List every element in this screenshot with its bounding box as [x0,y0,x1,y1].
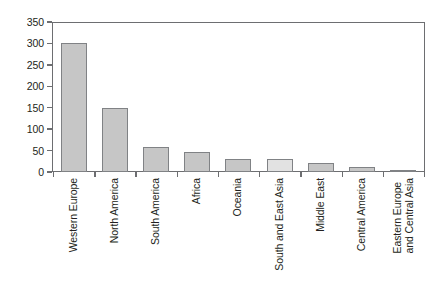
x-axis-tick-mark [135,172,136,177]
y-axis-tick-mark [47,150,52,151]
x-axis-label-line: South and East Asia [273,178,285,271]
bars-layer [53,22,424,172]
x-axis-tick-mark [94,172,95,177]
bar-slot [259,22,300,172]
y-axis-tick-mark [47,43,52,44]
x-axis-label: Africa [192,178,204,204]
y-axis-tick-label: 50 [33,144,44,158]
x-axis-tick-mark [383,172,384,177]
bar-slot [94,22,135,172]
x-axis-label-line: Western Europe [67,178,79,252]
x-axis-tick-mark [424,172,425,177]
y-axis-tick-label: 350 [27,15,44,29]
y-axis-tick-label: 300 [27,36,44,50]
x-axis-label-slot: North America [94,178,135,290]
y-axis-tick-label: 100 [27,122,44,136]
x-axis-label-line: and Central Asia [403,178,415,253]
x-axis-label: Central America [356,178,368,251]
y-axis-tick-mark [47,107,52,108]
x-axis-label-slot: South America [135,178,176,290]
x-axis-label-slot: Africa [177,178,218,290]
x-axis-label-slot: South and East Asia [259,178,300,290]
x-axis-label-slot: Eastern Europeand Central Asia [383,178,424,290]
x-axis-tick-mark [300,172,301,177]
x-axis-tick-mark [259,172,260,177]
bar[interactable] [143,147,169,172]
bar[interactable] [184,152,210,172]
x-axis-label-line: North America [108,178,120,243]
x-axis-label-slot: Middle East [300,178,341,290]
x-axis-tick-mark [53,172,54,177]
x-axis-label-slot: Central America [342,178,383,290]
y-axis-tick-label: 250 [27,58,44,72]
y-axis: 050100150200250300350 [0,22,52,172]
y-axis-tick-mark [47,128,52,129]
x-axis-label-slot: Oceania [218,178,259,290]
y-axis-tick-mark [47,64,52,65]
x-axis-tick-mark [218,172,219,177]
y-axis-tick-label: 150 [27,101,44,115]
x-axis-label: South America [150,178,162,245]
bar-slot [53,22,94,172]
bar-slot [218,22,259,172]
x-axis-label: North America [109,178,121,243]
x-axis-label-line: South America [149,178,161,245]
bar[interactable] [61,43,87,172]
y-axis-tick-label: 200 [27,79,44,93]
x-axis-labels: Western EuropeNorth AmericaSouth America… [53,178,424,290]
bar[interactable] [102,108,128,172]
x-axis-label-line: Oceania [232,178,244,216]
x-axis-label-slot: Western Europe [53,178,94,290]
bar-slot [383,22,424,172]
bar[interactable] [267,159,293,172]
bar-slot [177,22,218,172]
bar-chart-figure: 050100150200250300350 Western EuropeNort… [0,0,444,291]
x-axis-label: Middle East [315,178,327,232]
x-axis-label-line: Central America [355,178,367,251]
x-axis-label: Eastern Europeand Central Asia [392,178,415,253]
x-axis-label: Western Europe [68,178,80,252]
x-axis-label: South and East Asia [274,178,286,271]
x-axis-label: Oceania [233,178,245,216]
bar[interactable] [308,163,334,172]
y-axis-tick-mark [47,21,52,22]
bar-slot [135,22,176,172]
x-axis-tick-mark [342,172,343,177]
x-axis-label-line: Africa [191,178,203,204]
y-axis-tick-label: 0 [38,165,44,179]
x-axis-label-line: Eastern Europe [391,182,403,254]
x-axis-label-line: Middle East [314,178,326,232]
bar-slot [342,22,383,172]
bar[interactable] [225,159,251,172]
bar-slot [300,22,341,172]
x-axis-tick-mark [177,172,178,177]
y-axis-tick-mark [47,86,52,87]
